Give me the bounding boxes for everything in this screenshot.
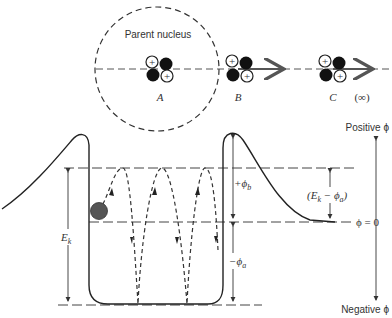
- positive-phi-label: Positive ϕ: [346, 122, 390, 133]
- neutron: [240, 57, 253, 70]
- trajectory-arrow: [130, 237, 133, 244]
- plus-sign: +: [337, 70, 343, 82]
- neutron: [147, 69, 160, 82]
- label-infinity: (∞): [354, 91, 370, 104]
- plus-sign: +: [229, 55, 235, 67]
- negative-phi-label: Negative ϕ: [341, 304, 389, 315]
- neutron: [160, 58, 173, 71]
- plus-sign: +: [149, 56, 155, 68]
- parent-nucleus-label: Parent nucleus: [125, 29, 192, 40]
- plus-sign: +: [244, 70, 250, 82]
- particle-trajectory: [103, 168, 218, 304]
- potential-well-section: Ek +ϕb −ϕa (Ek − ϕa) ϕ = 0 Positive ϕ Ne…: [2, 122, 392, 315]
- alpha-decay-diagram: Parent nucleus + + A + + B: [0, 0, 392, 318]
- neutron: [227, 69, 240, 82]
- trajectory-arrow: [175, 237, 179, 244]
- potential-curve: [2, 133, 335, 304]
- alpha-particle-ball: [91, 203, 108, 220]
- alpha-particle-a: + +: [146, 56, 173, 82]
- neutron: [333, 57, 346, 70]
- nucleus-section: Parent nucleus + + A + + B: [95, 7, 390, 131]
- neutron: [320, 69, 333, 82]
- plus-sign: +: [164, 70, 170, 82]
- label-c: C: [329, 91, 337, 103]
- label-b: B: [235, 91, 242, 103]
- label-a: A: [156, 91, 164, 103]
- plus-sign: +: [322, 55, 328, 67]
